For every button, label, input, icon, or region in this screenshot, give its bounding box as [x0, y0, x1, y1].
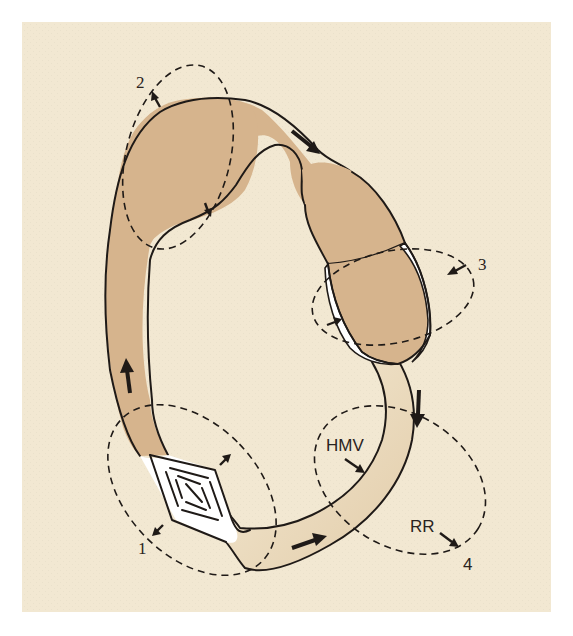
region-2-label: 2 — [136, 73, 145, 92]
region-4-label: 4 — [463, 555, 472, 574]
diagram-canvas: 2 3 1 4 HMV RR — [0, 0, 573, 636]
region-1-label: 1 — [138, 539, 147, 558]
hmv-label: HMV — [326, 436, 364, 455]
region-3-label: 3 — [478, 255, 487, 274]
circulation-diagram: 2 3 1 4 HMV RR — [0, 0, 573, 636]
rr-label: RR — [410, 517, 435, 536]
